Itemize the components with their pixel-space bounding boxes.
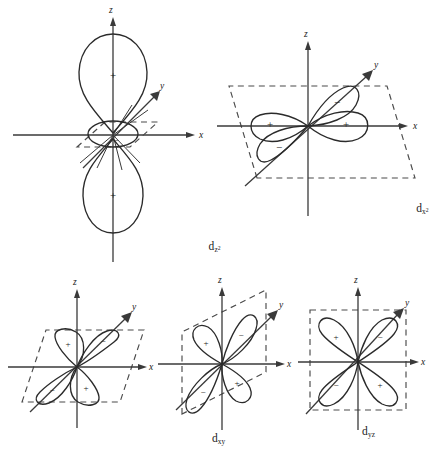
sign-minus-lower-left: − <box>49 385 54 395</box>
sign-plus-right: + <box>343 118 349 130</box>
d-orbital-figure: + + − z x y dz2 <box>0 0 429 458</box>
sign-plus-lower-right: + <box>377 380 382 390</box>
caption-dx2y2-sub: x2 − y2 <box>422 207 429 216</box>
orbital-caption-dz2: dz2 <box>0 240 429 252</box>
axis-label-y: y <box>404 298 410 308</box>
axis-label-z: z <box>217 275 222 285</box>
orbital-caption-dx2y2: dx2 − y2 <box>215 202 429 214</box>
sign-minus-torus: − <box>113 135 118 145</box>
lobe-upper-right: − <box>222 315 257 364</box>
sign-minus-lower-left: − <box>200 387 205 397</box>
lobe-upper-left: + <box>193 325 222 364</box>
sign-minus-upper-right: − <box>238 330 243 340</box>
lobe-upper-left: + <box>319 318 358 362</box>
sign-plus-lower-right: + <box>234 378 239 388</box>
sign-minus-upper-right: − <box>100 336 105 346</box>
sign-plus-left: + <box>267 118 273 130</box>
orbital-diagram-dxy: + − − + z x y <box>4 272 154 458</box>
axis-x <box>13 132 195 138</box>
sign-plus-lower-right: + <box>83 383 88 393</box>
axis-label-x: x <box>198 130 204 140</box>
axis-label-z: z <box>72 277 77 287</box>
sign-plus-upper-left: + <box>65 339 70 349</box>
sign-plus-bottom: + <box>110 189 116 201</box>
axis-label-x: x <box>420 357 426 367</box>
axis-y <box>306 308 404 414</box>
axis-label-y: y <box>373 60 379 70</box>
sign-plus-top: + <box>110 69 116 81</box>
axis-label-y: y <box>278 300 284 310</box>
orbital-diagram-dz2: + + − z x y <box>0 0 215 262</box>
sign-minus-upper-right: − <box>377 332 382 342</box>
sign-plus-upper-left: + <box>333 332 338 342</box>
axis-label-z: z <box>108 5 113 15</box>
axis-label-y: y <box>159 81 165 91</box>
lobe-upper-right: − <box>358 318 397 362</box>
lobe-upper-y: − <box>308 86 359 126</box>
axis-label-x: x <box>412 121 418 131</box>
axis-z <box>74 289 80 428</box>
lobe-lower-left: − <box>319 362 358 406</box>
sign-minus-upper: − <box>334 96 340 108</box>
sign-plus-upper-left: + <box>203 338 208 348</box>
dz2-svg: + + − z x y <box>0 0 215 262</box>
axis-y <box>176 310 278 410</box>
orbital-caption-dxz: dxz <box>294 425 429 437</box>
dxy-svg: + − − + z x y <box>4 272 154 458</box>
sign-minus-lower: − <box>276 141 282 153</box>
lobe-lower-right: + <box>358 362 397 406</box>
dashed-plane-xy <box>229 86 415 178</box>
dashed-plane-yz <box>182 290 266 414</box>
lobe-lower-right: + <box>222 364 251 403</box>
lobe-lower-left: − <box>186 364 222 413</box>
caption-dz2-sub: z2 <box>214 245 220 254</box>
sign-minus-lower-left: − <box>333 380 338 390</box>
axis-label-z: z <box>353 275 358 285</box>
axis-label-x: x <box>286 359 292 369</box>
axis-label-y: y <box>131 302 137 312</box>
axis-label-z: z <box>303 29 308 39</box>
